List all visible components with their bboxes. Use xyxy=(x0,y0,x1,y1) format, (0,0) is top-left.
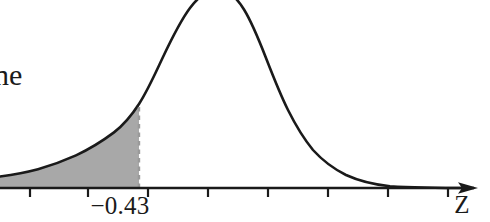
x-axis-ticks xyxy=(30,188,448,197)
shaded-tail-region xyxy=(0,104,139,188)
normal-distribution-figure: ne −0.43 Z xyxy=(0,0,490,222)
distribution-plot xyxy=(0,0,490,222)
